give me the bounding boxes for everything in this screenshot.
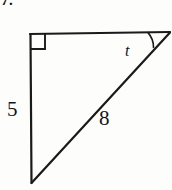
- side-length-label-hypotenuse: 8: [99, 108, 110, 129]
- right-angle-marker-icon: [31, 35, 45, 49]
- problem-number-label: 7.: [1, 0, 13, 8]
- side-length-label-vertical: 5: [7, 99, 18, 120]
- right-triangle-diagram: [0, 0, 172, 190]
- geometry-figure: 7. 5 8 t: [0, 0, 172, 190]
- angle-arc-icon: [148, 33, 154, 48]
- angle-label-t: t: [125, 43, 129, 59]
- triangle-vertical-leg: [31, 34, 32, 183]
